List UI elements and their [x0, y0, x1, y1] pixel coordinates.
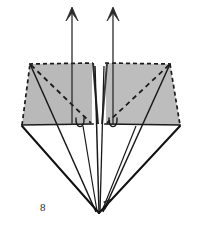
- diamond-left-edge: [22, 126, 99, 213]
- figure-container: 8: [0, 0, 200, 226]
- left-shaded-panel: [22, 63, 92, 125]
- right-fan-crease: [102, 126, 136, 211]
- panel-bottom-edges: [22, 124, 180, 125]
- center-fold-lines: [92, 63, 108, 212]
- diamond-right-edge: [99, 126, 180, 213]
- right-shaded-panel: [106, 63, 180, 125]
- center-fold-left-long: [95, 66, 99, 212]
- center-fold-right-long: [100, 66, 104, 212]
- figure-number-label: 8: [40, 201, 46, 213]
- origami-fold-diagram: [0, 0, 200, 226]
